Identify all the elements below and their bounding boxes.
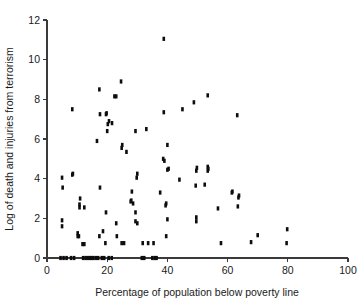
x-tick-label: 20 (101, 264, 113, 276)
data-point (123, 241, 126, 245)
data-point (116, 234, 119, 238)
data-point (217, 206, 220, 210)
data-point (115, 94, 118, 98)
data-point (206, 93, 209, 97)
data-point (236, 113, 239, 117)
scatter-chart: 024681012 020406080100 Percentage of pop… (0, 0, 364, 307)
x-tick-label: 60 (222, 264, 234, 276)
data-point (108, 119, 111, 123)
data-point (256, 233, 259, 237)
data-point (103, 256, 106, 260)
data-point (159, 190, 162, 194)
data-point (143, 256, 146, 260)
data-point (62, 256, 65, 260)
data-point (120, 79, 123, 83)
x-tick-label: 40 (162, 264, 174, 276)
data-point (145, 127, 148, 131)
data-point (131, 189, 134, 193)
data-point (78, 234, 81, 238)
data-point (97, 256, 100, 260)
data-point (237, 204, 240, 208)
data-point (147, 241, 150, 245)
data-point (73, 256, 76, 260)
data-point (162, 37, 165, 41)
data-point (162, 157, 165, 161)
y-tick-label: 0 (34, 252, 40, 264)
data-point (61, 176, 64, 180)
data-point (83, 242, 86, 246)
data-point (105, 210, 108, 214)
data-point (151, 256, 154, 260)
data-point (104, 241, 107, 245)
data-point (65, 256, 68, 260)
data-point (165, 201, 168, 205)
y-tick-label: 6 (34, 133, 40, 145)
data-point (78, 202, 81, 206)
data-point (207, 167, 210, 171)
data-point (166, 217, 169, 221)
data-point (220, 241, 223, 245)
data-point (165, 234, 168, 238)
data-point (106, 129, 109, 133)
y-axis-title: Log of death and injuries from terrorism (3, 47, 15, 231)
data-point (59, 256, 62, 260)
data-point (99, 112, 102, 116)
data-point (134, 129, 137, 133)
data-point (178, 178, 181, 182)
y-tick-label: 2 (34, 212, 40, 224)
x-tick-label: 80 (282, 264, 294, 276)
data-point (98, 234, 101, 238)
data-point (132, 201, 135, 205)
data-point (136, 221, 139, 225)
data-point (195, 215, 198, 219)
data-point (134, 210, 137, 214)
chart-background (0, 0, 364, 307)
data-point (196, 166, 199, 170)
data-point (96, 139, 99, 143)
data-point (285, 241, 288, 245)
data-point (181, 107, 184, 111)
data-point (194, 184, 197, 188)
x-tick-label: 100 (339, 264, 357, 276)
data-point (100, 256, 103, 260)
data-point (94, 256, 97, 260)
data-point (105, 111, 108, 115)
data-point (61, 224, 64, 228)
data-point (61, 218, 64, 222)
data-point (231, 189, 234, 193)
data-point (166, 143, 169, 147)
data-point (136, 172, 139, 176)
data-point (70, 256, 73, 260)
data-point (98, 87, 101, 91)
data-point (120, 241, 123, 245)
data-point (195, 219, 198, 223)
data-point (193, 100, 196, 104)
y-tick-label: 4 (34, 172, 40, 184)
data-point (92, 256, 95, 260)
data-point (115, 221, 118, 225)
data-point (141, 241, 144, 245)
y-tick-label: 10 (28, 53, 40, 65)
data-point (167, 167, 170, 171)
data-point (141, 256, 144, 260)
data-point (102, 229, 105, 233)
data-point (286, 227, 289, 231)
data-point (162, 110, 165, 114)
data-point (250, 240, 253, 244)
data-point (111, 121, 114, 125)
data-point (107, 256, 110, 260)
data-point (79, 196, 82, 200)
x-axis-title: Percentage of population below poverty l… (95, 286, 299, 298)
data-point (155, 256, 158, 260)
data-point (82, 256, 85, 260)
data-point (99, 185, 102, 189)
data-point (71, 107, 74, 111)
data-point (152, 241, 155, 245)
y-tick-label: 12 (28, 14, 40, 26)
data-point (203, 183, 206, 187)
data-point (238, 193, 241, 197)
data-point (110, 256, 113, 260)
data-point (125, 150, 128, 154)
data-point (135, 176, 138, 180)
data-point (72, 172, 75, 176)
